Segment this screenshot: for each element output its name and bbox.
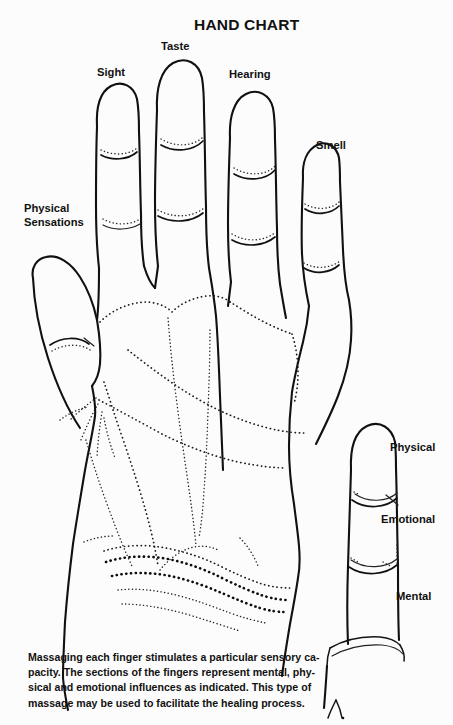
caption-line-2: pacity. The sections of the fingers repr…	[28, 665, 318, 680]
caption-line-4: massage may be used to facilitate the he…	[28, 696, 318, 711]
ring-finger-group	[228, 92, 280, 284]
hand-diagram-svg	[0, 0, 453, 725]
label-physical-sensations: Physical Sensations	[24, 202, 84, 229]
middle-finger-group	[155, 60, 209, 268]
page-title: HAND CHART	[194, 16, 299, 34]
enlarged-finger-group	[324, 424, 404, 719]
label-physical-sensations-line2: Sensations	[24, 216, 84, 230]
label-mental: Mental	[396, 590, 431, 604]
caption-line-1: Massaging each finger stimulates a parti…	[28, 650, 318, 665]
palm-dotted-lines-group	[60, 296, 304, 570]
label-emotional: Emotional	[381, 513, 435, 527]
index-finger-group	[96, 84, 144, 268]
label-smell: Smell	[316, 139, 346, 153]
label-sight: Sight	[97, 66, 125, 80]
palm-outline-group	[63, 266, 351, 710]
little-finger-group	[302, 143, 349, 306]
label-taste: Taste	[161, 40, 189, 54]
wrist-bracelet-lines-group	[84, 536, 290, 631]
caption-line-3: sical and emotional influences as indica…	[28, 680, 318, 695]
hand-chart-page: HAND CHART Taste Sight Hearing Smell Phy…	[0, 0, 453, 725]
caption-block: Massaging each finger stimulates a parti…	[28, 650, 318, 711]
label-hearing: Hearing	[229, 68, 271, 82]
label-physical-sensations-line1: Physical	[24, 202, 84, 216]
label-physical: Physical	[390, 441, 435, 455]
